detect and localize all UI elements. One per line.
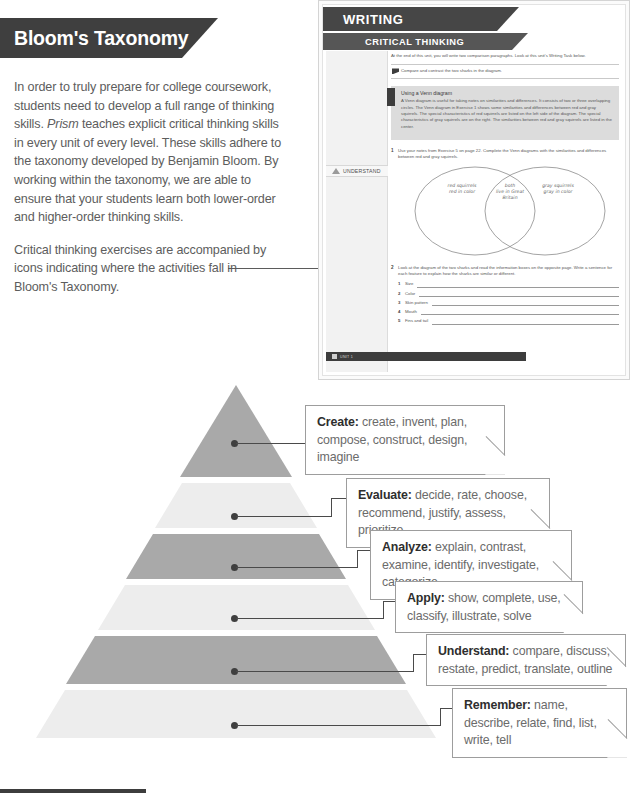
callout-remember: Remember: name, describe, relate, find, … — [452, 688, 627, 758]
callout-evaluate-label: Evaluate: — [358, 488, 412, 502]
page-footer-text: UNIT 1 — [340, 355, 353, 359]
callout-create-label: Create: — [317, 415, 359, 429]
pyramid-leader-evaluate-v — [331, 498, 332, 517]
answer-row: 4Mouth — [398, 309, 619, 315]
exercise-2-answer-list: 1Size2Color3Skin pattern4Mouth5Fins and … — [398, 281, 619, 324]
pyramid-leader-create — [236, 443, 306, 444]
callout-analyze-label: Analyze: — [382, 540, 432, 554]
pyramid-icon — [332, 168, 340, 174]
textbook-page-mockup: WRITING CRITICAL THINKING UNDERSTAND At … — [318, 0, 630, 380]
answer-row-number: 3 — [398, 300, 403, 306]
pyramid-leader-understand-h2 — [413, 654, 427, 655]
answer-row-number: 4 — [398, 309, 403, 315]
pyramid-leader-remember-h — [236, 725, 441, 726]
answer-row-blank[interactable] — [417, 284, 619, 288]
pyramid-leader-analyze-v — [357, 550, 358, 568]
exercise-2-number: 2 — [391, 265, 394, 271]
intro-p1-emphasis: Prism — [47, 117, 78, 131]
pyramid-band-evaluate — [155, 483, 317, 528]
page-footer-bar: UNIT 1 — [326, 352, 526, 361]
page-banner-writing: WRITING — [323, 7, 519, 31]
pyramid-band-remember — [36, 690, 436, 738]
page-banner-critical-thinking: CRITICAL THINKING — [323, 33, 528, 50]
callout-create: Create: create, invent, plan, compose, c… — [305, 405, 505, 475]
answer-row-blank[interactable] — [421, 311, 619, 315]
exercise-2-text: Look at the diagram of the two sharks an… — [398, 265, 619, 278]
sidebar-skill-chip-label: UNDERSTAND — [343, 168, 381, 174]
intro-p1-part-b: teaches explicit critical thinking skill… — [14, 117, 281, 224]
pyramid-leader-analyze-h — [236, 567, 358, 568]
page-inner-frame: WRITING CRITICAL THINKING UNDERSTAND At … — [322, 4, 626, 376]
answer-row-label: Fins and tail — [405, 318, 428, 324]
pyramid-band-analyze — [126, 534, 346, 579]
pyramid-leader-understand-h — [236, 671, 414, 672]
answer-row: 3Skin pattern — [398, 300, 619, 306]
page-title: Bloom's Taxonomy — [0, 27, 188, 50]
venn-circles — [391, 165, 629, 257]
venn-diagram: red squirrels red in color both live in … — [391, 165, 619, 257]
footer-square-icon — [332, 354, 337, 359]
skills-box-tab — [387, 88, 395, 106]
page-sidebar — [326, 51, 388, 372]
exercise-1-text: Use your notes from Exercise 5 on page 2… — [398, 148, 619, 161]
answer-row-label: Size — [405, 281, 413, 287]
pyramid-leader-remember-v — [440, 708, 441, 726]
callout-understand-label: Understand: — [438, 644, 509, 658]
page-title-banner: Bloom's Taxonomy — [0, 18, 218, 58]
bottom-rule — [0, 789, 146, 793]
answer-row: 1Size — [398, 281, 619, 287]
pyramid-leader-analyze-h2 — [357, 550, 371, 551]
pyramid-band-apply — [98, 585, 375, 630]
bloom-pyramid: Create: create, invent, plan, compose, c… — [0, 380, 630, 780]
intro-text-block: In order to truly prepare for college co… — [14, 78, 282, 297]
venn-label-right: gray squirrels gray in color — [523, 183, 593, 195]
skills-box: Using a Venn diagram A Venn diagram is u… — [391, 86, 619, 140]
sidebar-skill-chip-understand: UNDERSTAND — [326, 165, 388, 177]
venn-label-center-line3: Britain — [487, 195, 533, 201]
answer-row-label: Mouth — [405, 309, 417, 315]
pyramid-leader-evaluate-h2 — [331, 498, 347, 499]
exercise-1: 1 Use your notes from Exercise 5 on page… — [391, 148, 619, 161]
bloom-taxonomy-page: Bloom's Taxonomy In order to truly prepa… — [0, 0, 630, 801]
skills-box-title: Using a Venn diagram — [401, 90, 613, 96]
venn-label-right-line2: gray in color — [523, 189, 593, 195]
answer-row-blank[interactable] — [432, 302, 619, 306]
callout-remember-label: Remember: — [464, 698, 531, 712]
pyramid-leader-understand-v — [413, 654, 414, 672]
pyramid-leader-apply-h — [236, 618, 384, 619]
exercise-1-number: 1 — [391, 148, 394, 154]
answer-row-blank[interactable] — [432, 321, 619, 325]
answer-row: 5Fins and tail — [398, 318, 619, 324]
answer-row-blank[interactable] — [419, 293, 619, 297]
pyramid-leader-apply-v — [383, 601, 384, 619]
answer-row-label: Skin pattern — [405, 300, 428, 306]
intro-paragraph-1: In order to truly prepare for college co… — [14, 78, 282, 227]
exercise-2: 2 Look at the diagram of the two sharks … — [391, 265, 619, 325]
skills-box-body: A Venn diagram is useful for taking note… — [401, 98, 613, 130]
answer-row-number: 2 — [398, 291, 403, 297]
answer-row: 2Color — [398, 291, 619, 297]
callout-apply: Apply: show, complete, use, classify, il… — [395, 581, 583, 633]
answer-row-label: Color — [405, 291, 415, 297]
flag-icon — [392, 68, 399, 74]
callout-apply-label: Apply: — [407, 591, 445, 605]
page-intro-text: At the end of this unit, you will write … — [391, 53, 619, 59]
page-content-column: At the end of this unit, you will write … — [391, 53, 619, 325]
writing-task-box: Compare and contrast the two sharks in t… — [391, 64, 619, 78]
callout-understand: Understand: compare, discuss, restate, p… — [426, 634, 626, 686]
pyramid-band-understand — [66, 636, 406, 684]
page-banner-writing-label: WRITING — [323, 12, 404, 27]
pyramid-band-create — [180, 385, 292, 477]
answer-row-number: 1 — [398, 281, 403, 287]
answer-row-number: 5 — [398, 318, 403, 324]
writing-task-text: Compare and contrast the two sharks in t… — [401, 68, 619, 74]
pyramid-leader-evaluate-h — [236, 516, 332, 517]
page-banner-critical-thinking-label: CRITICAL THINKING — [323, 37, 464, 47]
